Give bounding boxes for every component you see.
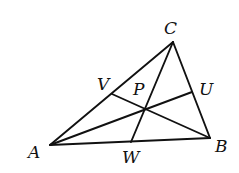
label-b: B	[214, 136, 228, 156]
label-p: P	[132, 79, 145, 99]
label-u: U	[199, 79, 214, 99]
triangle-diagram: A B C U V W P	[0, 0, 239, 173]
label-c: C	[164, 18, 177, 38]
label-v: V	[97, 74, 111, 94]
label-a: A	[26, 142, 40, 162]
segment-au	[50, 92, 192, 145]
segments	[50, 42, 210, 145]
label-w: W	[122, 147, 141, 167]
segment-ab	[50, 138, 210, 145]
